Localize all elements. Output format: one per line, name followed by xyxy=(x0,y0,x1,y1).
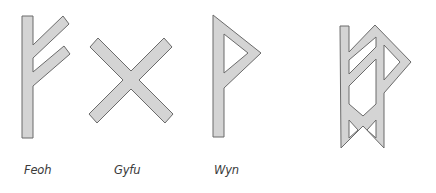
feoh-rune-icon xyxy=(22,16,70,138)
wyn-rune-icon xyxy=(213,15,261,137)
feoh-label: Feoh xyxy=(24,163,51,177)
wyn-label: Wyn xyxy=(214,163,239,177)
gyfu-label: Gyfu xyxy=(114,163,140,177)
gyfu-rune-icon xyxy=(89,38,173,123)
bindrune-icon xyxy=(340,25,411,148)
